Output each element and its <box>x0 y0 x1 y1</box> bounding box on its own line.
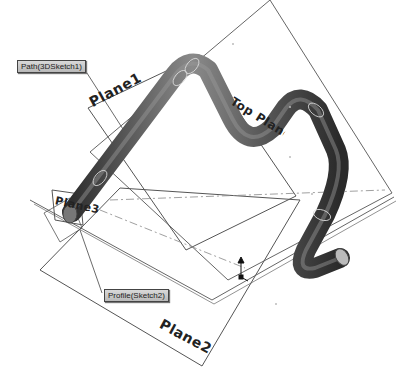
profile-callout[interactable]: Profile(Sketch2) <box>104 289 169 302</box>
path-callout[interactable]: Path(3DSketch1) <box>17 60 86 73</box>
cad-scene[interactable] <box>0 0 416 387</box>
profile-leader <box>80 230 102 293</box>
graphics-viewport[interactable]: Path(3DSketch1) Profile(Sketch2) Plane1 … <box>0 0 416 387</box>
centerline-2 <box>100 210 245 268</box>
origin-icon <box>238 257 248 281</box>
